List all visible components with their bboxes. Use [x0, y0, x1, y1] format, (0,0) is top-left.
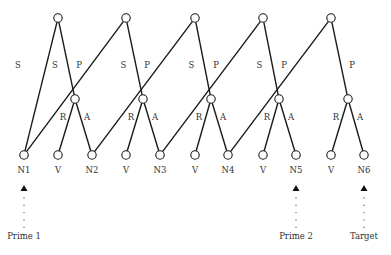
- edge-r: [332, 103, 347, 151]
- root-node: [259, 14, 267, 22]
- edge-label-s: S: [121, 60, 127, 70]
- dotted-pointer: [363, 197, 364, 198]
- edge-p: [264, 22, 278, 95]
- dotted-pointer: [363, 212, 364, 213]
- leaf-node: [360, 151, 368, 159]
- edge-p: [196, 22, 210, 95]
- dotted-pointer: [295, 212, 296, 213]
- root-node: [191, 14, 199, 22]
- dotted-pointer: [23, 197, 24, 198]
- root-node: [54, 14, 62, 22]
- edge-p: [127, 22, 142, 95]
- edge-label-r: R: [264, 112, 271, 122]
- edge-label-s: S: [15, 60, 21, 70]
- edge-label-a: A: [83, 112, 91, 122]
- prime-target-pointers: Prime 1Prime 2Target: [7, 185, 378, 241]
- leaf-node: [122, 151, 130, 159]
- dotted-pointer: [295, 219, 296, 220]
- leaf-label: N4: [222, 165, 235, 175]
- leaf-label: N1: [18, 165, 31, 175]
- leaf-node: [224, 151, 232, 159]
- edge-label-p: P: [144, 60, 150, 70]
- edge-r: [264, 103, 278, 151]
- leaf-node: [292, 151, 300, 159]
- dotted-pointer: [23, 212, 24, 213]
- dotted-pointer: [363, 219, 364, 220]
- edge-a: [349, 103, 363, 151]
- edge-p: [332, 22, 347, 95]
- pointer-label: Target: [350, 231, 379, 241]
- leaf-label: V: [54, 165, 62, 175]
- leaf-node: [259, 151, 267, 159]
- leaf-node: [191, 151, 199, 159]
- pointer-label: Prime 1: [7, 231, 41, 241]
- edge-label-r: R: [60, 112, 67, 122]
- up-arrow-icon: [293, 185, 300, 191]
- pointer-label: Prime 2: [279, 231, 313, 241]
- leaf-node: [54, 151, 62, 159]
- inner-node: [207, 95, 215, 103]
- leaf-node: [327, 151, 335, 159]
- edge-r: [196, 103, 210, 151]
- inner-node: [275, 95, 283, 103]
- edge-label-r: R: [128, 112, 135, 122]
- leaf-label: N5: [290, 165, 303, 175]
- parse-tree-diagram: SPRASPRASPRASPRASPRA N1VN2VN3VN4VN5VN6 P…: [0, 0, 391, 255]
- leaf-label: V: [259, 165, 267, 175]
- dotted-pointer: [363, 205, 364, 206]
- edge-r: [59, 103, 74, 151]
- edge-a: [212, 103, 227, 151]
- edge-label-a: A: [287, 112, 295, 122]
- dotted-pointer: [363, 227, 364, 228]
- edge-label-r: R: [333, 112, 340, 122]
- inner-node: [139, 95, 147, 103]
- edge-r: [127, 103, 142, 151]
- leaf-label: V: [191, 165, 199, 175]
- edge-label-p: P: [281, 60, 287, 70]
- leaf-node: [88, 151, 96, 159]
- inner-node: [344, 95, 352, 103]
- edge-label-p: P: [76, 60, 82, 70]
- edge-labels: SPRASPRASPRASPRASPRA: [15, 60, 364, 122]
- leaf-label: V: [327, 165, 335, 175]
- dotted-pointer: [295, 227, 296, 228]
- edge-label-p: P: [213, 60, 219, 70]
- edge-label-r: R: [196, 112, 203, 122]
- root-node: [327, 14, 335, 22]
- edge-label-a: A: [219, 112, 227, 122]
- leaf-labels: N1VN2VN3VN4VN5VN6: [18, 165, 371, 175]
- edge-label-s: S: [189, 60, 195, 70]
- leaf-label: N6: [358, 165, 371, 175]
- edge-label-a: A: [151, 112, 159, 122]
- inner-node: [71, 95, 79, 103]
- up-arrow-icon: [21, 185, 28, 191]
- dotted-pointer: [23, 205, 24, 206]
- leaf-node: [156, 151, 164, 159]
- edge-a: [144, 103, 159, 151]
- edge-label-p: P: [349, 60, 355, 70]
- tree-edges: [25, 21, 363, 151]
- dotted-pointer: [295, 205, 296, 206]
- root-node: [122, 14, 130, 22]
- edge-a: [76, 103, 91, 151]
- leaf-label: V: [122, 165, 130, 175]
- up-arrow-icon: [361, 185, 368, 191]
- leaf-label: N3: [154, 165, 167, 175]
- edge-label-s: S: [257, 60, 263, 70]
- dotted-pointer: [295, 197, 296, 198]
- dotted-pointer: [23, 227, 24, 228]
- edge-label-a: A: [356, 112, 364, 122]
- edge-p: [59, 22, 74, 95]
- leaf-label: N2: [86, 165, 99, 175]
- edge-label-s: S: [52, 60, 58, 70]
- dotted-pointer: [23, 219, 24, 220]
- leaf-node: [20, 151, 28, 159]
- edge-a: [280, 103, 295, 151]
